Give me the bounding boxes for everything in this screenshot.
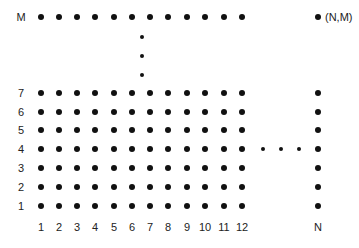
- row-label: 5: [18, 125, 24, 136]
- lattice-point: [221, 127, 227, 133]
- lattice-point: [184, 127, 190, 133]
- horizontal-ellipsis-dot: [297, 147, 301, 151]
- lattice-point: [165, 184, 171, 190]
- column-label: 1: [38, 222, 44, 233]
- lattice-point: [74, 109, 80, 115]
- lattice-point: [165, 109, 171, 115]
- lattice-point: [74, 146, 80, 152]
- row-label: 7: [18, 88, 24, 99]
- column-label: 7: [147, 222, 153, 233]
- lattice-point-row-m: [147, 14, 153, 20]
- vertical-ellipsis-dot: [140, 35, 144, 39]
- lattice-point: [74, 165, 80, 171]
- column-label: 9: [184, 222, 190, 233]
- lattice-point: [92, 90, 98, 96]
- lattice-point: [202, 165, 208, 171]
- lattice-point: [147, 90, 153, 96]
- row-label: 6: [18, 107, 24, 118]
- lattice-point: [111, 165, 117, 171]
- lattice-point: [74, 90, 80, 96]
- lattice-point: [165, 165, 171, 171]
- lattice-point: [239, 146, 245, 152]
- lattice-point-row-m: [92, 14, 98, 20]
- lattice-point: [202, 127, 208, 133]
- column-label: 8: [165, 222, 171, 233]
- lattice-point: [111, 127, 117, 133]
- row-label: 1: [18, 201, 24, 212]
- lattice-point: [92, 203, 98, 209]
- lattice-point: [56, 184, 62, 190]
- column-label: 3: [74, 222, 80, 233]
- lattice-point: [221, 184, 227, 190]
- lattice-point: [239, 184, 245, 190]
- lattice-point-row-m: [56, 14, 62, 20]
- lattice-point: [56, 127, 62, 133]
- column-label: 4: [92, 222, 98, 233]
- lattice-point-row-m: [129, 14, 135, 20]
- lattice-point: [202, 109, 208, 115]
- lattice-point: [92, 146, 98, 152]
- horizontal-ellipsis-dot: [279, 147, 283, 151]
- lattice-point: [221, 109, 227, 115]
- lattice-point: [221, 165, 227, 171]
- lattice-point: [129, 146, 135, 152]
- row-label: 4: [18, 144, 24, 155]
- lattice-point-column-n: [315, 109, 321, 115]
- lattice-point: [202, 203, 208, 209]
- column-label: 10: [199, 222, 211, 233]
- lattice-point: [74, 184, 80, 190]
- lattice-point-row-m: [38, 14, 44, 20]
- lattice-point: [147, 184, 153, 190]
- lattice-point: [202, 146, 208, 152]
- lattice-point-column-n: [315, 165, 321, 171]
- row-label: 2: [18, 182, 24, 193]
- lattice-point: [92, 127, 98, 133]
- lattice-point: [184, 146, 190, 152]
- lattice-point: [239, 109, 245, 115]
- lattice-point: [38, 203, 44, 209]
- lattice-point: [92, 109, 98, 115]
- lattice-point: [74, 127, 80, 133]
- lattice-point: [111, 109, 117, 115]
- lattice-point: [56, 165, 62, 171]
- lattice-point: [165, 90, 171, 96]
- lattice-point: [202, 184, 208, 190]
- lattice-point: [165, 203, 171, 209]
- column-label: 6: [129, 222, 135, 233]
- lattice-point: [111, 184, 117, 190]
- vertical-ellipsis-dot: [140, 54, 144, 58]
- row-label: 3: [18, 163, 24, 174]
- lattice-point: [147, 127, 153, 133]
- lattice-point-column-n: [315, 90, 321, 96]
- lattice-point: [184, 184, 190, 190]
- lattice-point: [184, 90, 190, 96]
- lattice-point: [56, 146, 62, 152]
- lattice-point: [92, 165, 98, 171]
- corner-label: (N,M): [325, 12, 353, 23]
- corner-point-n-m: [315, 14, 321, 20]
- column-label: 2: [56, 222, 62, 233]
- lattice-point: [56, 90, 62, 96]
- lattice-point-row-m: [74, 14, 80, 20]
- lattice-point-row-m: [202, 14, 208, 20]
- lattice-point-column-n: [315, 127, 321, 133]
- lattice-point: [129, 184, 135, 190]
- lattice-point: [38, 184, 44, 190]
- lattice-point: [239, 127, 245, 133]
- horizontal-ellipsis-dot: [261, 147, 265, 151]
- lattice-point: [221, 203, 227, 209]
- lattice-point: [129, 165, 135, 171]
- lattice-point-column-n: [315, 146, 321, 152]
- column-label: 5: [111, 222, 117, 233]
- column-label: 12: [236, 222, 248, 233]
- lattice-point: [202, 90, 208, 96]
- lattice-point: [92, 184, 98, 190]
- lattice-point: [38, 90, 44, 96]
- lattice-point-row-m: [111, 14, 117, 20]
- lattice-point: [221, 146, 227, 152]
- lattice-point-column-n: [315, 184, 321, 190]
- lattice-point-row-m: [221, 14, 227, 20]
- lattice-point-column-n: [315, 203, 321, 209]
- lattice-point: [147, 146, 153, 152]
- lattice-grid-diagram: 1234567M(N,M)123456789101112N: [0, 0, 359, 248]
